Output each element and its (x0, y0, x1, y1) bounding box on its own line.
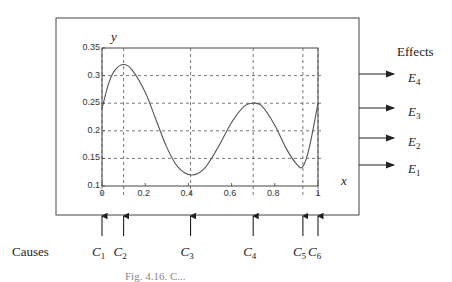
cause-label: C1 (92, 244, 105, 261)
axis-ticks (102, 48, 318, 186)
cause-arrows (102, 216, 318, 236)
effect-label: E2 (408, 134, 420, 151)
y-tick-label: 0.15 (82, 152, 100, 162)
cause-label: C5 (293, 244, 306, 261)
cause-label: C3 (181, 244, 194, 261)
x-tick-label: 0.6 (224, 188, 237, 198)
x-tick-label: 0 (99, 188, 104, 198)
y-tick-label: 0.35 (82, 42, 100, 52)
x-tick-label: 0.4 (181, 188, 194, 198)
effect-arrows (359, 74, 394, 165)
effects-label: Effects (397, 44, 434, 60)
effect-label: E4 (408, 70, 420, 87)
x-tick-label: 0.2 (137, 188, 150, 198)
x-axis-label: x (341, 173, 347, 189)
effect-label: E3 (408, 104, 420, 121)
reference-lines (102, 48, 322, 198)
y-tick-label: 0.1 (87, 180, 100, 190)
effect-label: E1 (408, 161, 420, 178)
figure-caption: Fig. 4.16. C... (125, 270, 186, 282)
y-tick-label: 0.25 (82, 97, 100, 107)
cause-label: C4 (243, 244, 256, 261)
x-tick-label: 0.8 (267, 188, 280, 198)
y-tick-label: 0.3 (87, 70, 100, 80)
causes-label: Causes (12, 244, 49, 260)
plot-frame (102, 48, 318, 186)
cause-label: C2 (114, 244, 127, 261)
y-axis-label: y (111, 29, 117, 45)
y-tick-label: 0.2 (87, 125, 100, 135)
cause-label: C6 (308, 244, 321, 261)
x-tick-label: 1 (315, 188, 320, 198)
